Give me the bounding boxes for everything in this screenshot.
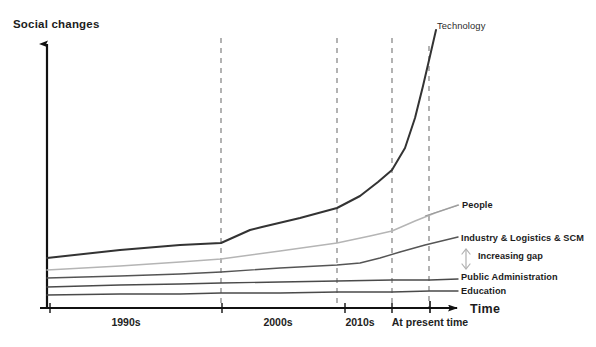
social-changes-chart: Social changes Time 1990s 2000s 2010s At… bbox=[0, 0, 596, 347]
series-line-education bbox=[47, 291, 458, 295]
vertical-double-arrow-icon bbox=[462, 249, 470, 269]
series-line-people bbox=[47, 205, 458, 270]
series-line-public-administration bbox=[47, 279, 458, 287]
series-label-public-administration: Public Administration bbox=[461, 273, 558, 282]
series-line-technology bbox=[47, 30, 436, 258]
x-tick-label-2000s: 2000s bbox=[263, 317, 292, 328]
gridline-group bbox=[221, 38, 429, 308]
series-label-industry: Industry & Logistics & SCM bbox=[461, 234, 584, 243]
x-tick-label-1990s: 1990s bbox=[111, 317, 140, 328]
series-label-education: Education bbox=[461, 287, 506, 296]
x-tick-label-2010s: 2010s bbox=[345, 317, 374, 328]
annotation-increasing-gap: Increasing gap bbox=[478, 252, 543, 261]
series-label-technology: Technology bbox=[437, 21, 485, 30]
axis-group bbox=[40, 44, 457, 313]
chart-canvas bbox=[0, 0, 596, 347]
series-group bbox=[47, 30, 458, 295]
x-axis-title: Time bbox=[470, 303, 500, 316]
series-label-people: People bbox=[462, 201, 493, 210]
label-leader-group bbox=[425, 205, 459, 216]
y-axis-title: Social changes bbox=[13, 19, 100, 31]
x-tick-label-at-present-time: At present time bbox=[392, 317, 468, 328]
series-line-industry bbox=[47, 237, 458, 278]
